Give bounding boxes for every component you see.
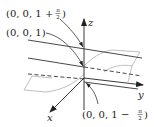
point-label-top-frac-num: π [56,7,60,13]
curved-surface [24,50,140,92]
svg-text:(0, 0, 1 +: (0, 0, 1 + [6,8,53,19]
leader-top [60,19,83,47]
line-mid-left [28,58,84,67]
x-axis-label: x [47,112,53,123]
line-mid-right-dashed [84,67,142,76]
point-label-top: (0, 0, 1 + π 2 ) [6,7,66,20]
z-axis-label: z [87,17,94,28]
line-top [28,40,142,58]
point-label-bottom-prefix: (0, 0, 1 − [82,109,129,120]
y-axis-label: y [137,89,144,100]
point-label-mid: (0, 0, 1) [6,27,46,38]
x-axis [50,78,84,112]
point-label-bottom-frac-num: π [138,108,142,114]
point-label-top-frac-den: 2 [56,14,60,20]
svg-text:(0, 0, 1 −: (0, 0, 1 − [82,109,129,120]
point-label-top-prefix: (0, 0, 1 + [6,8,53,19]
3d-axes-diagram: z y x (0, 0, 1 + π 2 ) (0, 0, 1) (0, 0, … [0,0,154,127]
point-label-bottom-frac-den: 2 [138,115,142,121]
point-label-bottom: (0, 0, 1 − π 2 ) [82,108,148,121]
y-axis [84,78,143,85]
point-label-bottom-suffix: ) [144,109,148,120]
point-label-top-suffix: ) [62,8,66,19]
leader-bottom [86,83,98,104]
